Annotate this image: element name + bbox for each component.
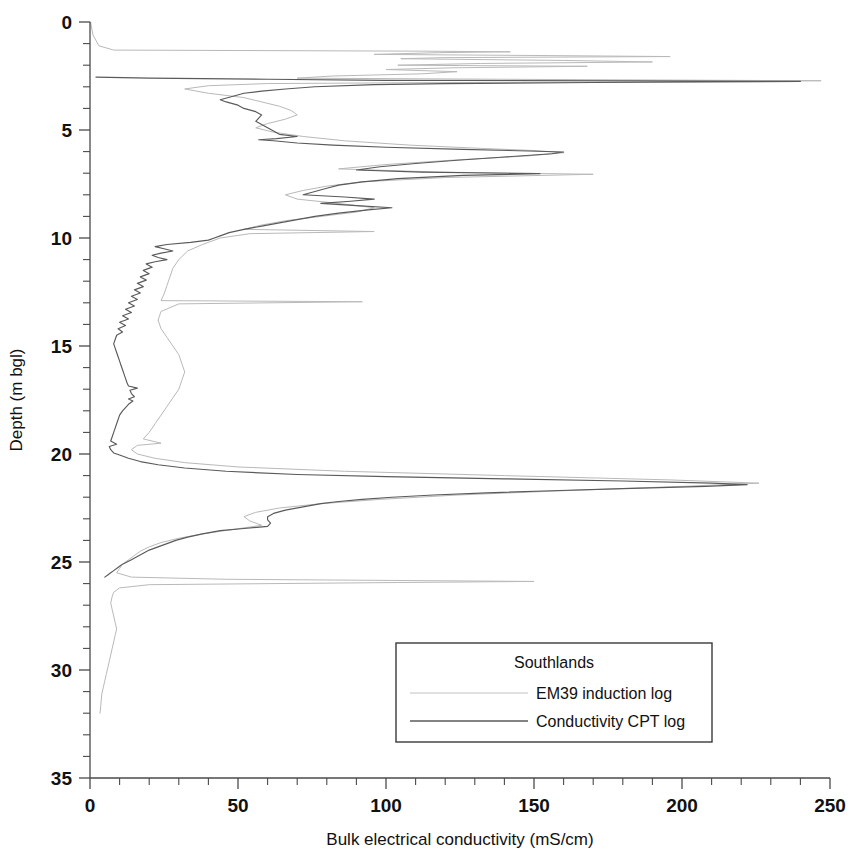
y-tick-label: 20 bbox=[51, 444, 72, 465]
y-tick-label: 0 bbox=[61, 12, 72, 33]
x-tick-label: 50 bbox=[227, 795, 248, 816]
y-tick-label: 15 bbox=[51, 336, 73, 357]
series-line-em39 bbox=[91, 22, 822, 713]
y-tick-label: 5 bbox=[61, 120, 72, 141]
y-axis-tick-labels: 05101520253035 bbox=[51, 12, 73, 789]
x-tick-label: 200 bbox=[666, 795, 698, 816]
x-tick-label: 150 bbox=[518, 795, 550, 816]
y-tick-label: 25 bbox=[51, 552, 73, 573]
legend-title: Southlands bbox=[514, 654, 594, 671]
y-axis-title: Depth (m bgl) bbox=[7, 349, 26, 452]
x-tick-label: 100 bbox=[370, 795, 402, 816]
chart-legend: Southlands EM39 induction log Conductivi… bbox=[396, 643, 712, 742]
x-tick-label: 0 bbox=[85, 795, 96, 816]
y-tick-label: 30 bbox=[51, 660, 72, 681]
x-axis-tick-labels: 050100150200250 bbox=[85, 795, 846, 816]
legend-label-em39: EM39 induction log bbox=[536, 685, 672, 702]
chart-canvas: 05101520253035 050100150200250 Bulk elec… bbox=[0, 0, 861, 866]
series-line-cpt bbox=[96, 77, 800, 577]
legend-label-cpt: Conductivity CPT log bbox=[536, 713, 685, 730]
y-tick-label: 10 bbox=[51, 228, 72, 249]
y-axis-ticks bbox=[79, 22, 90, 778]
series-group bbox=[91, 22, 822, 713]
x-axis-ticks bbox=[90, 778, 830, 789]
y-tick-label: 35 bbox=[51, 768, 73, 789]
x-tick-label: 250 bbox=[814, 795, 846, 816]
x-axis-title: Bulk electrical conductivity (mS/cm) bbox=[326, 830, 593, 849]
conductivity-depth-chart: 05101520253035 050100150200250 Bulk elec… bbox=[0, 0, 861, 866]
